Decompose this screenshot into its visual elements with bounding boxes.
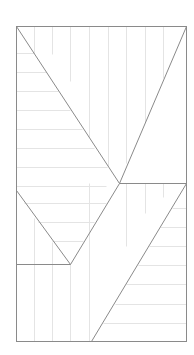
- geometric-line-diagram: [0, 0, 194, 355]
